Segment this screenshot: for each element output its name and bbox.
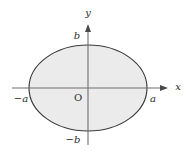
ellipse-diagram-svg: x y O b −b a −a bbox=[0, 0, 191, 152]
y-axis-arrow-icon bbox=[85, 24, 91, 32]
b-negative-label: −b bbox=[66, 134, 81, 145]
b-positive-label: b bbox=[74, 30, 80, 41]
a-positive-label: a bbox=[150, 93, 156, 104]
ellipse-figure: x y O b −b a −a bbox=[0, 0, 191, 152]
x-axis-arrow-icon bbox=[160, 85, 168, 91]
origin-label: O bbox=[74, 92, 82, 103]
a-negative-label: −a bbox=[14, 93, 28, 104]
x-axis-label: x bbox=[175, 81, 181, 92]
y-axis-label: y bbox=[84, 7, 91, 18]
